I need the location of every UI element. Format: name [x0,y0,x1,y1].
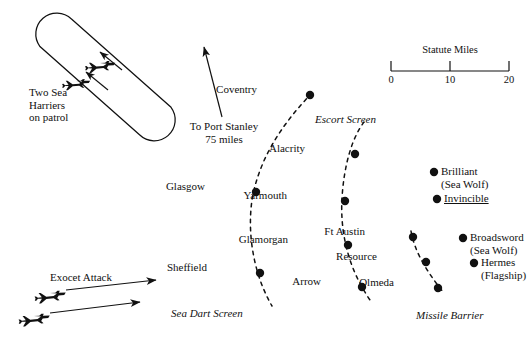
unit-dot-brilliant [430,168,438,176]
unit-dot-alacrity [351,150,359,158]
unit-label-glamorgan: Glamorgan [208,233,288,246]
unit-label-invincible: Invincible [444,192,489,205]
unit-label-hermes-sub: (Flagship) [481,269,526,282]
unit-label-brilliant-name: Brilliant [441,165,488,178]
scale-bar [391,61,509,71]
exocet-aircraft-icon-2 [18,313,50,326]
scale-tick-label-0: 0 [376,74,406,85]
unit-dot-hermes [470,259,478,267]
unit-dot-yarmouth [341,197,349,205]
harrier-caption-line-1: Two Sea [29,86,67,98]
scale-bar-title: Statute Miles [411,44,489,55]
sea-harrier-icon-1 [85,61,116,73]
unit-label-broadsword: Broadsword (Sea Wolf) [470,231,524,256]
port-stanley-arrow [204,47,222,117]
unit-dot-resource [422,258,430,266]
unit-label-broadsword-sub: (Sea Wolf) [470,244,524,257]
unit-label-ft-austin: Ft Austin [285,225,365,238]
unit-label-brilliant-sub: (Sea Wolf) [441,178,488,191]
unit-dot-ft-austin [409,233,417,241]
unit-label-arrow: Arrow [241,275,321,288]
unit-label-alacrity: Alacrity [225,142,305,155]
unit-label-sheffield: Sheffield [127,261,207,274]
escort-screen-label: Escort Screen [315,113,376,126]
unit-label-hermes-name: Hermes [481,256,526,269]
task-force-disposition-map: Two Sea Harriers on patrol To Port Stanl… [0,0,532,348]
unit-label-coventry: Coventry [177,83,257,96]
exocet-aircraft-icon-1 [34,290,66,303]
unit-label-glasgow: Glasgow [125,180,205,193]
unit-label-yarmouth: Yarmouth [207,189,287,202]
harrier-caption-line-3: on patrol [29,111,68,123]
scale-tick-label-20: 20 [494,74,524,85]
unit-dot-coventry [306,91,314,99]
exocet-attack-label: Exocet Attack [50,271,112,284]
exocet-vector-arrow-2 [50,302,140,313]
harrier-caption-line-2: Harriers [29,99,65,111]
missile-barrier-label: Missile Barrier [416,309,484,322]
port-stanley-line-1: To Port Stanley [190,120,258,132]
escort-screen-arc [342,122,370,300]
scale-tick-label-10: 10 [435,74,465,85]
unit-label-brilliant: Brilliant (Sea Wolf) [441,165,488,190]
unit-label-broadsword-name: Broadsword [470,231,524,244]
unit-dot-broadsword [459,234,467,242]
sea-dart-screen-label: Sea Dart Screen [171,307,243,320]
harrier-caption: Two Sea Harriers on patrol [29,86,68,124]
unit-dot-olmeda [434,284,442,292]
unit-label-olmeda: Olmeda [314,276,394,289]
unit-dot-glamorgan [344,241,352,249]
unit-label-hermes: Hermes (Flagship) [481,256,526,281]
unit-label-resource: Resource [297,250,377,263]
unit-dot-invincible [433,195,441,203]
